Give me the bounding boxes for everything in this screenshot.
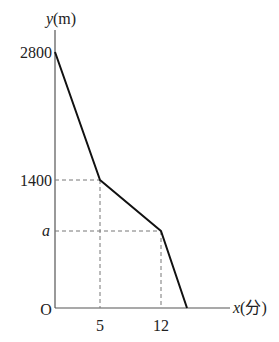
y-tick-2800: 2800 bbox=[20, 44, 52, 61]
origin-label: O bbox=[40, 301, 52, 318]
x-axis-var: x bbox=[232, 299, 240, 316]
y-axis-label: y(m) bbox=[44, 10, 76, 28]
x-tick-12: 12 bbox=[153, 317, 169, 334]
chart-svg: y(m) 2800 1400 a O 5 12 x(分) bbox=[0, 0, 279, 342]
x-axis-label: x(分) bbox=[232, 299, 267, 317]
y-tick-1400: 1400 bbox=[20, 172, 52, 189]
x-axis-unit: (分) bbox=[240, 299, 267, 317]
x-tick-5: 5 bbox=[96, 317, 104, 334]
distance-time-chart: y(m) 2800 1400 a O 5 12 x(分) bbox=[0, 0, 279, 342]
y-tick-a: a bbox=[42, 222, 50, 239]
y-axis-unit: (m) bbox=[53, 10, 76, 28]
data-line bbox=[55, 52, 187, 308]
